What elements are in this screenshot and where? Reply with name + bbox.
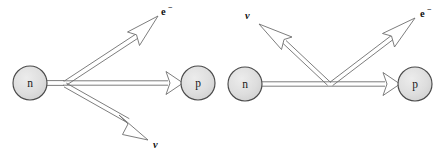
electron-label-superscript: −	[427, 5, 432, 14]
neutron-label: n	[27, 77, 33, 89]
electron-arrowhead-left	[128, 16, 159, 46]
figure-container: n p e − ν	[0, 0, 441, 158]
neutrino-label-left: ν	[153, 139, 158, 150]
electron-arrowhead-right	[383, 18, 416, 47]
neutrino-track-left	[64, 83, 148, 140]
neutrino-label-right: ν	[245, 10, 250, 21]
neutrino-arrowhead-left	[119, 115, 148, 140]
electron-label-text: e	[161, 6, 166, 17]
label-electron-right: e −	[420, 5, 432, 19]
node-neutron-right: n	[228, 67, 262, 101]
diagram-beta-decay: n p e − ν	[13, 3, 215, 150]
node-neutron-left: n	[13, 66, 47, 100]
nucleon-track-right	[261, 73, 400, 96]
proton-label: p	[195, 77, 201, 90]
electron-label-superscript: −	[168, 3, 173, 12]
neutron-label: n	[242, 78, 248, 90]
diagram-inverse-beta-decay: n p ν e −	[228, 5, 432, 101]
label-electron-left: e −	[161, 3, 173, 17]
node-proton-right: p	[398, 67, 432, 101]
neutrino-arrowhead-right	[259, 24, 292, 50]
proton-label: p	[412, 78, 418, 91]
electron-label-text: e	[420, 8, 425, 19]
neutrino-track-right	[259, 24, 331, 85]
particle-diagram-canvas: n p e − ν	[0, 0, 441, 158]
electron-track-left	[64, 16, 158, 85]
node-proton-left: p	[181, 66, 215, 100]
neutron-line-left	[46, 81, 64, 86]
